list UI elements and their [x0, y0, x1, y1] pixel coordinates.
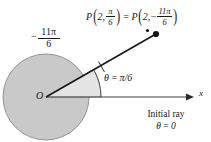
sweep-minus-sign: − — [31, 31, 37, 42]
angle-left-denominator: 6 — [107, 17, 113, 26]
initial-ray-theta-symbol: θ — [156, 121, 161, 131]
initial-ray-theta-line: θ = 0 — [135, 122, 197, 132]
p-symbol-left: P — [86, 12, 92, 22]
angle-right-denominator: 6 — [161, 17, 167, 26]
x-axis-arrowhead — [186, 94, 194, 101]
x-axis-label: x — [199, 89, 203, 98]
point-p-marker — [153, 31, 159, 37]
open-paren-right: ( — [138, 9, 142, 24]
polar-angle-figure: P ( 2 , π 6 ) = P ( 2 , − 11π 6 ) − — [0, 0, 211, 142]
origin-label: O — [36, 91, 43, 101]
close-paren-right: ) — [173, 9, 177, 24]
initial-ray-equals-sign: = — [163, 121, 168, 131]
theta-angle-label: θ = π/6 — [104, 73, 132, 83]
initial-ray-theta-value: 0 — [171, 121, 176, 131]
sweep-fraction: 11π 6 — [38, 27, 60, 49]
sweep-denominator: 6 — [45, 39, 52, 50]
point-label-leader-dot — [146, 29, 149, 32]
initial-ray-caption: Initial ray θ = 0 — [135, 110, 197, 131]
point-p-left-expression: P ( 2 , π 6 ) — [86, 7, 121, 26]
theta-symbol: θ — [104, 72, 109, 83]
initial-ray-text: Initial ray — [147, 109, 184, 119]
equals-sign: = — [121, 11, 132, 22]
theta-equals-sign: = — [111, 72, 117, 83]
angle-left-numerator: π — [107, 7, 113, 16]
close-paren-left: ) — [116, 9, 120, 24]
angle-fraction-right: 11π 6 — [157, 7, 171, 26]
point-p-label: P ( 2 , π 6 ) = P ( 2 , − 11π 6 ) — [86, 7, 177, 26]
sweep-numerator: 11π — [40, 27, 57, 38]
p-symbol-right: P — [131, 12, 137, 22]
open-paren-left: ( — [93, 9, 97, 24]
negative-sweep-label: − 11π 6 — [31, 27, 60, 49]
angle-fraction-left: π 6 — [106, 7, 115, 26]
minus-sign-right: − — [151, 12, 157, 22]
point-p-right-expression: P ( 2 , − 11π 6 ) — [131, 7, 177, 26]
theta-value: π/6 — [120, 72, 133, 83]
angle-right-numerator: 11π — [157, 7, 171, 16]
